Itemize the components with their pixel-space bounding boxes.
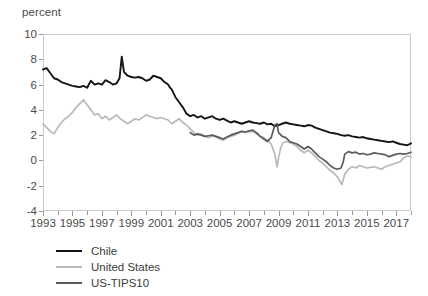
x-axis-tick-label: 2007 xyxy=(236,217,262,229)
x-axis-tick-mark xyxy=(43,211,44,216)
legend-item: Chile xyxy=(56,243,296,259)
x-axis-tick-label: 1993 xyxy=(30,217,56,229)
chart-container: percent 1086420-2-4 19931995199719992001… xyxy=(0,0,428,296)
x-axis-tick-mark xyxy=(293,211,294,215)
x-axis-tick-mark xyxy=(190,211,191,216)
legend-item-label: US-TIPS10 xyxy=(91,275,149,291)
x-axis-tick-mark xyxy=(220,211,221,216)
x-axis-tick-label: 2017 xyxy=(383,217,409,229)
legend-color-swatch xyxy=(56,266,82,268)
y-axis-tick-label: 4 xyxy=(3,104,37,116)
x-axis-tick-mark xyxy=(87,211,88,215)
y-axis-tick-label: 0 xyxy=(3,154,37,166)
y-axis-tick-label: 8 xyxy=(3,53,37,65)
x-axis-tick-mark xyxy=(367,211,368,216)
x-axis-tick-mark xyxy=(146,211,147,215)
x-axis-tick-label: 2013 xyxy=(325,217,351,229)
x-axis-tick-mark xyxy=(234,211,235,215)
legend-color-swatch xyxy=(56,282,82,284)
x-axis-tick-mark xyxy=(117,211,118,215)
legend-item: United States xyxy=(56,259,296,275)
series-lines xyxy=(43,34,411,211)
x-axis-tick-mark xyxy=(264,211,265,215)
x-axis-tick-label: 2011 xyxy=(296,217,321,229)
series-line-chile xyxy=(43,57,411,146)
x-axis-tick-mark xyxy=(382,211,383,215)
x-axis-tick-mark xyxy=(205,211,206,215)
x-axis-tick-mark xyxy=(323,211,324,215)
x-axis-tick-label: 2009 xyxy=(266,217,292,229)
x-axis-tick-mark xyxy=(308,211,309,216)
x-axis-tick-label: 2005 xyxy=(207,217,233,229)
x-axis-tick-label: 1997 xyxy=(89,217,115,229)
x-axis-tick-label: 2015 xyxy=(354,217,380,229)
legend-color-swatch xyxy=(56,250,82,252)
y-axis-unit-label: percent xyxy=(22,6,61,18)
series-line-united-states xyxy=(43,100,411,185)
x-axis-tick-mark xyxy=(249,211,250,216)
series-line-us-tips10 xyxy=(190,124,411,170)
plot-area xyxy=(43,34,411,211)
x-axis-tick-mark xyxy=(58,211,59,215)
chart-legend: ChileUnited StatesUS-TIPS10 xyxy=(56,243,296,291)
x-axis-tick-mark xyxy=(131,211,132,216)
legend-item: US-TIPS10 xyxy=(56,275,296,291)
x-axis-tick-mark xyxy=(337,211,338,216)
y-axis-tick-label: -4 xyxy=(3,205,37,217)
x-axis-tick-label: 1995 xyxy=(60,217,86,229)
legend-item-label: Chile xyxy=(91,243,117,259)
y-axis-tick-labels: 1086420-2-4 xyxy=(0,34,37,211)
x-axis-tick-label: 2003 xyxy=(177,217,203,229)
x-axis-tick-marks xyxy=(43,211,411,216)
x-axis-tick-mark xyxy=(175,211,176,215)
x-axis-tick-label: 2001 xyxy=(148,217,174,229)
x-axis-tick-mark xyxy=(161,211,162,216)
y-axis-tick-label: 2 xyxy=(3,129,37,141)
y-axis-tick-label: 10 xyxy=(3,28,37,40)
y-axis-tick-label: -2 xyxy=(3,180,37,192)
x-axis-tick-label: 1999 xyxy=(119,217,145,229)
legend-item-label: United States xyxy=(91,259,160,275)
x-axis-tick-mark xyxy=(396,211,397,216)
x-axis-tick-mark xyxy=(72,211,73,216)
y-axis-tick-label: 6 xyxy=(3,79,37,91)
x-axis-tick-mark xyxy=(411,211,412,215)
x-axis-tick-mark xyxy=(279,211,280,216)
x-axis-tick-labels: 1993199519971999200120032005200720092011… xyxy=(43,217,411,233)
x-axis-tick-mark xyxy=(352,211,353,215)
x-axis-tick-mark xyxy=(102,211,103,216)
